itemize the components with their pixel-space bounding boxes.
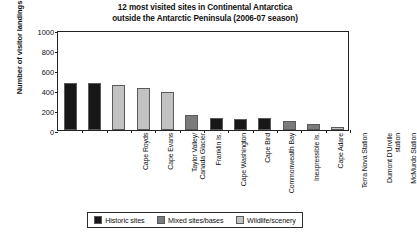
x-axis-label: Cape Evans	[167, 133, 175, 203]
legend-item[interactable]: Wildlife/scenery	[236, 216, 296, 225]
x-axis-label: McMurdo Station	[410, 133, 417, 203]
bar-slot	[58, 32, 82, 130]
y-axis-tick-mark	[55, 32, 58, 33]
x-axis-label: Terra Nova Station	[361, 133, 369, 203]
y-axis-tick-label: 1000	[24, 28, 58, 37]
chart-title: 12 most visited sites in Continental Ant…	[60, 3, 350, 24]
bar[interactable]	[234, 119, 247, 131]
y-axis-title: Number of visitor landings	[15, 0, 24, 98]
bar[interactable]	[283, 121, 296, 131]
bars-layer	[58, 32, 348, 130]
y-axis-tick-mark	[55, 92, 58, 93]
legend-swatch-icon	[157, 216, 165, 224]
y-axis-tick-label: 800	[24, 48, 58, 57]
legend-label: Wildlife/scenery	[247, 216, 296, 225]
y-axis-tick-label: 600	[24, 68, 58, 77]
y-axis-tick-label: 200	[24, 108, 58, 117]
bar-slot	[326, 32, 350, 130]
bar[interactable]	[258, 118, 271, 130]
x-axis-label: Inexpressible Is.	[313, 133, 321, 203]
x-axis-labels: Cape RoydsCape EvansTaylor Valley/ Canad…	[57, 133, 349, 205]
bar[interactable]	[88, 83, 101, 130]
x-axis-label: Franklin Is.	[215, 133, 223, 203]
x-axis-label: Dumont D'Urville station	[386, 133, 401, 203]
y-axis-tick-label: 0	[24, 128, 58, 137]
bar[interactable]	[185, 115, 198, 130]
y-axis-tick-mark	[55, 72, 58, 73]
bar-slot	[155, 32, 179, 130]
bar-slot	[228, 32, 252, 130]
chart-legend: Historic sitesMixed sites/basesWildlife/…	[87, 212, 303, 228]
bar-slot	[277, 32, 301, 130]
bar[interactable]	[331, 127, 344, 131]
y-axis-tick-label: 400	[24, 88, 58, 97]
legend-swatch-icon	[236, 216, 244, 224]
bar[interactable]	[307, 124, 320, 130]
plot-area: 10008006004002000	[57, 31, 349, 131]
x-axis-label: Commonwealth Bay	[288, 133, 296, 203]
x-axis-tick-mark	[350, 130, 351, 133]
y-axis-tick-mark	[55, 52, 58, 53]
legend-swatch-icon	[94, 216, 102, 224]
x-axis-label: Cape Adare	[337, 133, 345, 203]
bar-slot	[107, 32, 131, 130]
bar-slot	[82, 32, 106, 130]
bar-slot	[131, 32, 155, 130]
bar-slot	[204, 32, 228, 130]
bar[interactable]	[161, 92, 174, 130]
legend-item[interactable]: Historic sites	[94, 216, 144, 225]
legend-label: Mixed sites/bases	[168, 216, 223, 225]
x-axis-label: Cape Washington	[240, 133, 248, 203]
bar[interactable]	[112, 85, 125, 130]
chart-title-line-2: outside the Antarctic Peninsula (2006-07…	[60, 14, 350, 25]
x-axis-label: Cape Bird	[264, 133, 272, 203]
legend-label: Historic sites	[105, 216, 144, 225]
x-axis-label: Cape Royds	[142, 133, 150, 203]
bar-slot	[301, 32, 325, 130]
chart-title-line-1: 12 most visited sites in Continental Ant…	[118, 3, 292, 12]
bar-slot	[253, 32, 277, 130]
bar[interactable]	[64, 83, 77, 130]
x-axis-label: Taylor Valley/ Canada Glacier	[191, 133, 206, 203]
y-axis-tick-mark	[55, 112, 58, 113]
bar-slot	[180, 32, 204, 130]
legend-item[interactable]: Mixed sites/bases	[157, 216, 223, 225]
bar[interactable]	[210, 118, 223, 130]
bar[interactable]	[137, 88, 150, 130]
